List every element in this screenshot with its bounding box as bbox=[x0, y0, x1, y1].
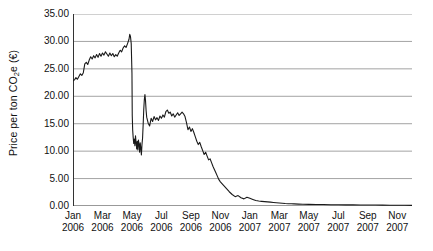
chart-figure: Price per ton CO2e (€) 35.0030.0025.0020… bbox=[0, 0, 433, 251]
y-axis-title-post: e (€) bbox=[7, 50, 19, 72]
y-axis-title-pre: Price per ton CO bbox=[7, 76, 19, 156]
x-axis-tick-labels: Jan2006Mar2006May2006Jul2006Sep2006Nov20… bbox=[0, 210, 433, 251]
y-axis-title-subscript: 2 bbox=[12, 72, 21, 76]
x-tick-year: 2007 bbox=[374, 222, 420, 234]
plot-area bbox=[73, 14, 412, 206]
y-axis-tick-label: 35.00 bbox=[25, 9, 69, 19]
data-series-line bbox=[73, 34, 412, 205]
y-axis-tick-label: 20.00 bbox=[25, 91, 69, 101]
y-axis-tick-label: 25.00 bbox=[25, 64, 69, 74]
y-axis-tick-label: 30.00 bbox=[25, 36, 69, 46]
y-axis-tick-label: 15.00 bbox=[25, 119, 69, 129]
y-axis-tick-label: 10.00 bbox=[25, 146, 69, 156]
x-tick-month: Nov bbox=[374, 210, 420, 222]
y-axis-title-text: Price per ton CO2e (€) bbox=[7, 50, 19, 156]
y-axis-tick-label: 5.00 bbox=[25, 174, 69, 184]
plot-svg bbox=[73, 14, 412, 206]
x-axis-tick-label: Nov2007 bbox=[374, 210, 420, 234]
